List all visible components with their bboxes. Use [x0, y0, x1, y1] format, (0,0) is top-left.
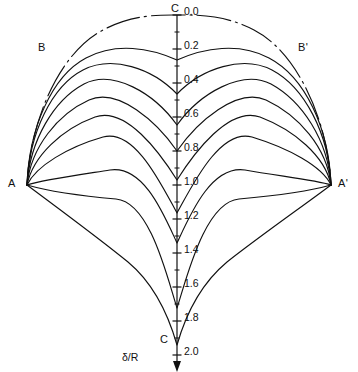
axis-tick-label: 1.8 — [184, 311, 199, 323]
axis-tick-label: 1.2 — [184, 209, 199, 221]
axis-arrowhead — [173, 361, 181, 372]
axis-tick-label: 1.0 — [184, 175, 199, 187]
axis-tick-label: 0.6 — [184, 107, 199, 119]
contour-curves-group — [27, 15, 331, 345]
vertex-label-b: B — [38, 41, 46, 53]
contour-diagram-figure: C C A A' B B' δ/R 0.00.20.40.60.81.01.21… — [0, 0, 358, 372]
diagram-canvas — [0, 0, 358, 372]
contour-curve — [27, 170, 331, 243]
axis-title-delta-over-r: δ/R — [122, 351, 138, 363]
axis-tick-label: 2.0 — [184, 345, 199, 357]
vertex-label-a-prime: A' — [338, 177, 348, 189]
axis-tick-label: 0.0 — [184, 5, 199, 17]
contour-curve — [27, 97, 331, 185]
contour-curve — [27, 79, 331, 185]
axis-tick-label: 0.4 — [184, 73, 199, 85]
axis-tick-label: 1.6 — [184, 277, 199, 289]
contour-curve — [27, 185, 331, 308]
axis-tick-label: 0.8 — [184, 141, 199, 153]
vertex-label-c-bottom: C — [160, 333, 168, 345]
axis-tick-label: 0.2 — [184, 39, 199, 51]
delta-over-r-axis-group — [173, 15, 182, 372]
contour-curve — [27, 64, 331, 185]
vertex-label-a: A — [8, 177, 16, 189]
vertex-label-b-prime: B' — [298, 41, 308, 53]
vertex-label-c-top: C — [171, 2, 179, 14]
axis-tick-label: 1.4 — [184, 243, 199, 255]
